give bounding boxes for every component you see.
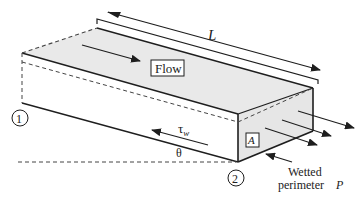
length-arrowhead-left [107, 12, 121, 18]
flow-label: Flow [155, 61, 182, 76]
section-2-label: 2 [232, 172, 238, 186]
perimeter-symbol: P [335, 178, 344, 192]
wall-shear-label: τw [178, 121, 189, 138]
angle-label: θ [176, 146, 182, 160]
wetted-label-line1: Wetted [288, 165, 322, 179]
length-label: L [207, 27, 216, 43]
front-bottom-edge [22, 103, 238, 162]
area-label: A [247, 134, 255, 146]
duct-flow-diagram: L Flow 1 2 τw θ A Wetted perimeter P [0, 0, 364, 199]
wetted-perimeter-arrow [266, 154, 292, 162]
section-1-label: 1 [16, 112, 22, 126]
wetted-label-line2: perimeter [278, 178, 324, 192]
